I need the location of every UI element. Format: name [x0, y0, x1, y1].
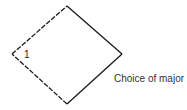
vertex-label: 1 — [24, 49, 30, 60]
diamond-caption: Choice of major — [114, 73, 185, 84]
edge-top-right — [67, 6, 122, 54]
edge-bottom-left — [12, 54, 67, 104]
decision-diagram: 1 Choice of major — [0, 0, 187, 110]
edge-left-top — [12, 6, 67, 54]
